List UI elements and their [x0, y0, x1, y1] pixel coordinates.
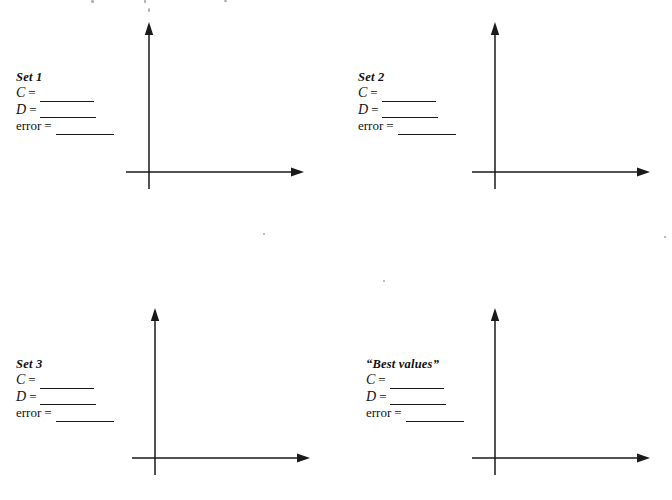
label-block-set-2: Set 2C=D=error= — [358, 70, 456, 135]
equals-sign: = — [26, 389, 38, 406]
field-row-c: C= — [16, 372, 114, 389]
equals-sign: = — [383, 118, 395, 135]
y-axis-arrowhead — [491, 22, 499, 35]
label-block-set-1: Set 1C=D=error= — [16, 70, 114, 135]
error-field-label: error — [358, 118, 383, 135]
field-row-error: error= — [16, 405, 114, 422]
scan-artifact-0 — [91, 0, 94, 3]
x-axis-arrowhead — [637, 167, 650, 176]
equals-sign: = — [375, 372, 387, 389]
d-field-label: D — [16, 389, 26, 406]
scan-artifact-5 — [383, 280, 385, 282]
y-axis-arrowhead — [151, 308, 159, 321]
equals-sign: = — [376, 389, 388, 406]
axes-set-2 — [472, 20, 652, 180]
c-blank-input[interactable] — [40, 377, 94, 389]
d-blank-input[interactable] — [390, 393, 446, 405]
y-axis-arrowhead — [145, 22, 153, 35]
equals-sign: = — [25, 372, 37, 389]
scan-artifact-6 — [664, 236, 666, 238]
equals-sign: = — [41, 405, 53, 422]
label-block-best-values: “Best values”C=D=error= — [366, 357, 464, 422]
c-field-label: C — [16, 85, 25, 102]
d-field-label: D — [358, 102, 368, 119]
c-blank-input[interactable] — [40, 90, 94, 102]
equals-sign: = — [367, 85, 379, 102]
axes-best-values — [472, 306, 652, 466]
d-field-label: D — [366, 389, 376, 406]
field-row-d: D= — [358, 102, 456, 119]
error-field-label: error — [16, 118, 41, 135]
scan-artifact-4 — [263, 233, 265, 235]
equals-sign: = — [26, 102, 38, 119]
d-blank-input[interactable] — [382, 106, 438, 118]
error-blank-input[interactable] — [56, 123, 114, 135]
worksheet-page: Set 1C=D=error=Set 2C=D=error=Set 3C=D=e… — [0, 0, 672, 500]
error-blank-input[interactable] — [406, 410, 464, 422]
y-axis-arrowhead — [491, 308, 499, 321]
c-blank-input[interactable] — [382, 90, 436, 102]
scan-artifact-1 — [144, 0, 146, 3]
error-field-label: error — [16, 405, 41, 422]
equals-sign: = — [391, 405, 403, 422]
equals-sign: = — [41, 118, 53, 135]
field-row-error: error= — [16, 118, 114, 135]
scan-artifact-2 — [224, 0, 227, 2]
d-blank-input[interactable] — [40, 393, 96, 405]
field-row-d: D= — [366, 389, 464, 406]
set-title-set-1: Set 1 — [16, 70, 114, 85]
field-row-c: C= — [16, 85, 114, 102]
equals-sign: = — [25, 85, 37, 102]
x-axis-arrowhead — [637, 453, 650, 462]
set-title-set-3: Set 3 — [16, 357, 114, 372]
scan-artifact-3 — [148, 8, 150, 12]
field-row-c: C= — [358, 85, 456, 102]
d-blank-input[interactable] — [40, 106, 96, 118]
c-field-label: C — [16, 372, 25, 389]
label-block-set-3: Set 3C=D=error= — [16, 357, 114, 422]
error-blank-input[interactable] — [56, 410, 114, 422]
field-row-c: C= — [366, 372, 464, 389]
equals-sign: = — [368, 102, 380, 119]
c-blank-input[interactable] — [390, 377, 444, 389]
field-row-error: error= — [358, 118, 456, 135]
field-row-d: D= — [16, 102, 114, 119]
c-field-label: C — [358, 85, 367, 102]
axes-set-3 — [132, 306, 312, 466]
d-field-label: D — [16, 102, 26, 119]
set-title-set-2: Set 2 — [358, 70, 456, 85]
set-title-best-values: “Best values” — [366, 357, 464, 372]
field-row-d: D= — [16, 389, 114, 406]
x-axis-arrowhead — [297, 453, 310, 462]
x-axis-arrowhead — [291, 167, 304, 176]
c-field-label: C — [366, 372, 375, 389]
axes-set-1 — [126, 20, 306, 180]
error-blank-input[interactable] — [398, 123, 456, 135]
field-row-error: error= — [366, 405, 464, 422]
error-field-label: error — [366, 405, 391, 422]
